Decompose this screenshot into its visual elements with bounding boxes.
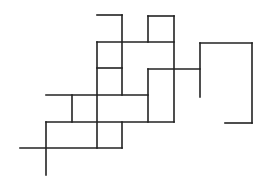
line-diagram [0,0,265,187]
